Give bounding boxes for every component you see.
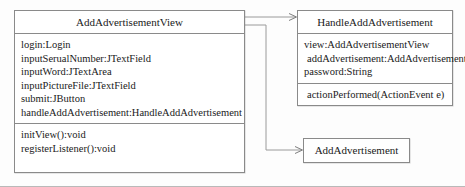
operation-row: actionPerformed(ActionEvent e) — [298, 88, 452, 102]
operation-row: initView():void — [15, 128, 244, 142]
attribute-row: addAdvertisement:AddAdvertisement — [298, 52, 452, 66]
attribute-row: inputPictureFile:JTextField — [15, 79, 244, 93]
attribute-row: submit:JButton — [15, 92, 244, 106]
attribute-row: view:AddAdvertisementView — [298, 38, 452, 52]
attribute-row: inputWord:JTextArea — [15, 65, 244, 79]
operations-compartment-handler: actionPerformed(ActionEvent e) — [298, 84, 452, 106]
uml-class-add-advertisement-view[interactable]: AddAdvertisementView login:Login inputSe… — [14, 10, 245, 173]
attribute-row: inputSerualNumber:JTextField — [15, 52, 244, 66]
uml-class-handle-add-advertisement[interactable]: HandleAddAdvertisement view:AddAdvertise… — [297, 10, 453, 106]
scan-artifact-line — [0, 186, 465, 187]
class-name-handle-add-advertisement: HandleAddAdvertisement — [298, 11, 452, 33]
attribute-row: password:String — [298, 65, 452, 79]
operation-row: registerListener():void — [15, 142, 244, 156]
attribute-row: handleAddAdvertisement:HandleAddAdvertis… — [15, 106, 244, 120]
operations-compartment-view: initView():void registerListener():void — [15, 124, 244, 159]
connector-view-to-model — [245, 25, 302, 150]
class-name-add-advertisement: AddAdvertisement — [315, 144, 399, 156]
attributes-compartment-view: login:Login inputSerualNumber:JTextField… — [15, 34, 244, 123]
attributes-compartment-handler: view:AddAdvertisementView addAdvertiseme… — [298, 34, 452, 83]
attribute-row: login:Login — [15, 38, 244, 52]
uml-class-add-advertisement[interactable]: AddAdvertisement — [303, 138, 410, 163]
class-name-add-advertisement-view: AddAdvertisementView — [15, 11, 244, 33]
uml-class-diagram-canvas: AddAdvertisementView login:Login inputSe… — [0, 0, 465, 187]
